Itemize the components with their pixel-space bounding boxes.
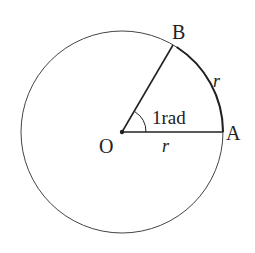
angle-arc <box>135 112 146 132</box>
label-angle: 1rad <box>152 107 186 128</box>
label-b: B <box>172 21 185 43</box>
radian-diagram: B A O r r 1rad <box>0 0 255 253</box>
label-arc-r: r <box>213 71 221 91</box>
label-a: A <box>226 122 241 144</box>
center-dot <box>120 130 124 134</box>
label-radius-r: r <box>162 136 170 156</box>
label-o: O <box>99 135 113 157</box>
